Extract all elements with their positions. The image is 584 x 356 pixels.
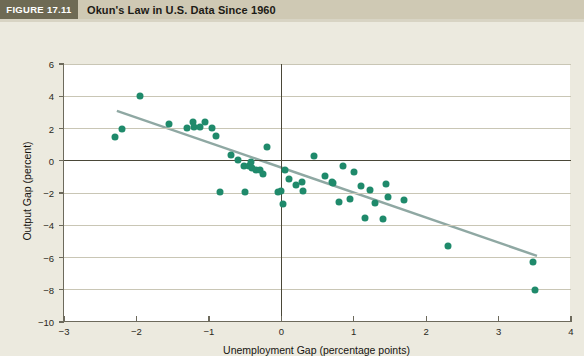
gridline-horizontal [64,193,571,194]
y-axis-tick-label: −2 [28,188,54,199]
figure-header-band: FIGURE 17.11 Okun's Law in U.S. Data Sin… [0,0,584,19]
trendline [117,111,537,256]
gridline-horizontal [64,64,571,65]
x-axis-tick-label: 3 [496,326,501,337]
scatter-point [263,144,270,151]
x-axis-tick-label: −1 [203,326,214,337]
scatter-point [260,171,267,178]
scatter-point [366,186,373,193]
scatter-point [279,201,286,208]
gridline-horizontal [64,257,571,258]
scatter-point [285,176,292,183]
scatter-point [202,119,209,126]
figure-body: Output Gap (percent) −10−8−6−4−20246−3−2… [0,22,584,356]
x-axis-tick [208,316,209,322]
gridline-horizontal [64,225,571,226]
scatter-point [234,156,241,163]
x-axis-tick-label: 0 [279,326,284,337]
scatter-point [298,178,305,185]
y-axis-tick-label: −8 [28,284,54,295]
y-axis-tick-label: −6 [28,252,54,263]
y-axis-tick-label: 2 [28,123,54,134]
figure-number-tag: FIGURE 17.11 [0,0,78,19]
scatter-point [300,188,307,195]
scatter-point [372,199,379,206]
y-axis-tick [59,128,64,129]
scatter-point [530,259,537,266]
figure-root: FIGURE 17.11 Okun's Law in U.S. Data Sin… [0,0,584,356]
y-axis-tick-label: −10 [28,317,54,328]
y-axis-tick [59,96,64,97]
x-axis-tick [570,316,571,322]
scatter-point [350,169,357,176]
scatter-point [209,124,216,131]
scatter-point [531,286,538,293]
scatter-point [118,126,125,133]
scatter-point [361,214,368,221]
zero-line-horizontal [64,160,571,161]
scatter-point [379,215,386,222]
y-axis-tick-label: 4 [28,91,54,102]
scatter-point [310,152,317,159]
gridline-horizontal [64,289,571,290]
gridline-horizontal [64,128,571,129]
y-axis-tick-label: 0 [28,155,54,166]
x-axis-tick [63,316,64,322]
x-axis-tick [136,316,137,322]
y-axis-tick [59,160,64,161]
scatter-point [401,197,408,204]
x-axis-tick-label: 4 [568,326,573,337]
y-axis-tick [59,192,64,193]
y-axis-tick [59,257,64,258]
scatter-point [383,181,390,188]
scatter-point [213,132,220,139]
x-axis-tick-label: 1 [351,326,356,337]
scatter-point [347,195,354,202]
scatter-point [339,163,346,170]
scatter-point [137,93,144,100]
scatter-point [330,179,337,186]
scatter-point [242,189,249,196]
x-axis-tick [353,316,354,322]
scatter-point [444,243,451,250]
scatter-point [385,194,392,201]
scatter-point [166,120,173,127]
plot-area: −10−8−6−4−20246−3−2−101234 [63,64,570,322]
scatter-point [227,152,234,159]
scatter-point [216,189,223,196]
y-axis-tick [59,225,64,226]
y-axis-tick-label: −4 [28,220,54,231]
x-axis-tick-label: 2 [423,326,428,337]
x-axis-tick-label: −2 [131,326,142,337]
x-axis-title: Unemployment Gap (percentage points) [63,344,570,356]
x-axis-tick [426,316,427,322]
scatter-point [278,188,285,195]
x-axis-tick [498,316,499,322]
figure-number-label: FIGURE 17.11 [6,4,71,15]
scatter-point [357,182,364,189]
scatter-point [184,124,191,131]
figure-title: Okun's Law in U.S. Data Since 1960 [87,0,276,19]
scatter-point [336,198,343,205]
x-axis-tick [281,316,282,322]
scatter-point [281,167,288,174]
y-axis-tick-label: 6 [28,59,54,70]
scatter-point [321,173,328,180]
scatter-point [111,134,118,141]
y-axis-tick [59,289,64,290]
y-axis-tick [59,63,64,64]
x-axis-tick-label: −3 [59,326,70,337]
